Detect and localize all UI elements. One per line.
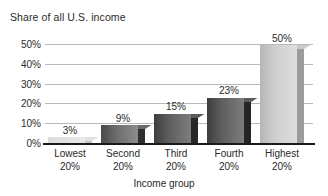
- y-tick-label: 0%: [1, 138, 41, 149]
- bar-side-face: [244, 102, 251, 143]
- category-label-line1: Lowest: [48, 148, 92, 161]
- category-label-second: Second 20%: [101, 148, 145, 173]
- bar-value-label: 50%: [272, 33, 292, 44]
- bar-front-face: [260, 45, 297, 143]
- bar-group-third[interactable]: 15%: [154, 44, 198, 143]
- bar-value-label: 15%: [166, 101, 186, 112]
- bar-group-lowest[interactable]: 3%: [48, 44, 92, 143]
- bar-front-face: [154, 114, 191, 143]
- bar-side-face: [138, 129, 145, 143]
- bar-third[interactable]: [154, 114, 198, 143]
- x-axis-title: Income group: [0, 178, 328, 189]
- bar-second[interactable]: [101, 125, 145, 143]
- y-tick-label: 30%: [1, 78, 41, 89]
- x-axis-baseline: [43, 143, 315, 145]
- bar-fourth[interactable]: [207, 98, 251, 143]
- chart-title: Share of all U.S. income: [10, 11, 126, 23]
- y-axis: 50% 40% 30% 20% 10% 0%: [0, 44, 41, 143]
- bar-value-label: 23%: [219, 85, 239, 96]
- category-label-highest: Highest 20%: [260, 148, 304, 173]
- category-label-line1: Third: [154, 148, 198, 161]
- bar-highest[interactable]: [260, 45, 304, 143]
- bar-series: 3% 9% 15% 23%: [45, 44, 313, 143]
- category-label-line2: 20%: [154, 161, 198, 174]
- category-label-third: Third 20%: [154, 148, 198, 173]
- y-tick-label: 10%: [1, 118, 41, 129]
- bar-front-face: [207, 98, 244, 143]
- category-label-line2: 20%: [207, 161, 251, 174]
- category-label-line1: Second: [101, 148, 145, 161]
- bar-group-second[interactable]: 9%: [101, 44, 145, 143]
- category-label-line2: 20%: [260, 161, 304, 174]
- category-label-line1: Fourth: [207, 148, 251, 161]
- category-label-line1: Highest: [260, 148, 304, 161]
- y-tick-label: 50%: [1, 39, 41, 50]
- bar-value-label: 9%: [116, 113, 130, 124]
- bar-side-face: [297, 49, 304, 143]
- bar-value-label: 3%: [63, 125, 77, 136]
- category-label-line2: 20%: [101, 161, 145, 174]
- category-label-lowest: Lowest 20%: [48, 148, 92, 173]
- bar-group-fourth[interactable]: 23%: [207, 44, 251, 143]
- y-tick-label: 20%: [1, 98, 41, 109]
- bar-chart: Share of all U.S. income 50% 40% 30% 20%…: [0, 0, 328, 196]
- y-tick-label: 40%: [1, 58, 41, 69]
- category-label-line2: 20%: [48, 161, 92, 174]
- bar-side-face: [191, 118, 198, 143]
- bar-front-face: [101, 125, 138, 143]
- bar-group-highest[interactable]: 50%: [260, 44, 304, 143]
- category-label-fourth: Fourth 20%: [207, 148, 251, 173]
